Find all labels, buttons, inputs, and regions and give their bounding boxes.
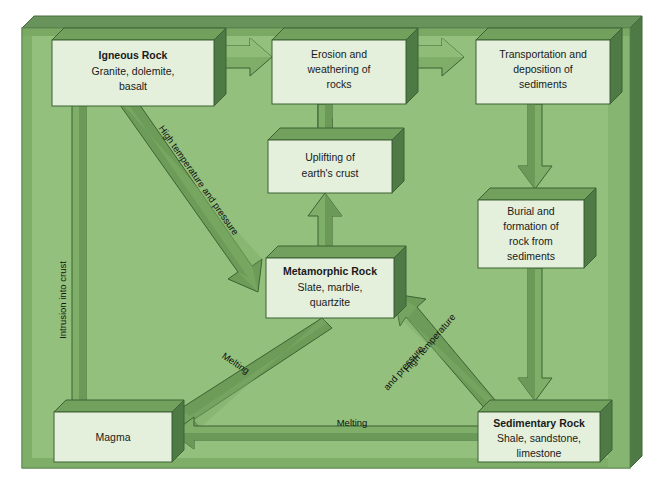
box-igneous-rock-line-1: Granite, dolemite, — [92, 65, 175, 77]
box-metamorphic-rock-line-2: quartzite — [310, 296, 350, 308]
box-metamorphic-rock-line-1: Slate, marble, — [298, 281, 363, 293]
box-metamorphic-rock-title: Metamorphic Rock — [283, 265, 377, 277]
box-burial-formation-line-3: rock from — [509, 235, 553, 247]
box-igneous-rock[interactable]: Igneous Rock Granite, dolemite, basalt — [52, 28, 226, 106]
box-magma-line-1: Magma — [95, 431, 130, 443]
box-igneous-rock-title: Igneous Rock — [99, 49, 168, 61]
box-sedimentary-rock-line-1: Shale, sandstone, — [497, 432, 581, 444]
box-uplifting-line-2: earth's crust — [302, 167, 359, 179]
arrow-label-melting-sedimentary: Melting — [337, 417, 368, 428]
box-burial-formation-line-4: sediments — [507, 250, 555, 262]
box-transportation-deposition-line-3: sediments — [519, 78, 567, 90]
box-igneous-rock-line-2: basalt — [119, 80, 147, 92]
box-transportation-deposition-line-2: deposition of — [513, 63, 573, 75]
box-erosion-weathering-line-3: rocks — [326, 78, 351, 90]
box-sedimentary-rock-line-2: limestone — [517, 447, 562, 459]
box-erosion-weathering-line-1: Erosion and — [311, 48, 367, 60]
box-sedimentary-rock[interactable]: Sedimentary Rock Shale, sandstone, limes… — [478, 400, 612, 462]
box-transportation-deposition[interactable]: Transportation and deposition of sedimen… — [476, 28, 622, 104]
box-uplifting-line-1: Uplifting of — [305, 151, 355, 163]
arrow-label-intrusion: Intrusion into crust — [57, 261, 68, 339]
box-burial-formation-line-1: Burial and — [507, 205, 554, 217]
diagram-canvas: Intrusion into crust High temperature an… — [0, 0, 664, 483]
box-metamorphic-rock[interactable]: Metamorphic Rock Slate, marble, quartzit… — [266, 246, 406, 318]
box-transportation-deposition-line-1: Transportation and — [499, 48, 587, 60]
box-magma[interactable]: Magma — [54, 400, 184, 462]
box-erosion-weathering[interactable]: Erosion and weathering of rocks — [272, 28, 418, 104]
box-uplifting[interactable]: Uplifting of earth's crust — [268, 128, 404, 193]
box-burial-formation[interactable]: Burial and formation of rock from sedime… — [478, 188, 596, 268]
box-burial-formation-line-2: formation of — [503, 220, 559, 232]
box-sedimentary-rock-title: Sedimentary Rock — [493, 417, 585, 429]
box-erosion-weathering-line-2: weathering of — [306, 63, 370, 75]
rock-cycle-diagram: Intrusion into crust High temperature an… — [0, 0, 664, 483]
